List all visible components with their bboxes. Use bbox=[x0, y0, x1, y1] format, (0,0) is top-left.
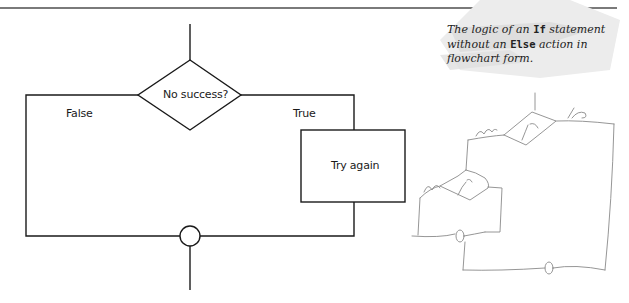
caption-code-else: Else bbox=[510, 38, 535, 50]
caption-code-if: If bbox=[533, 23, 546, 35]
process-label: Try again bbox=[331, 159, 379, 172]
false-path bbox=[26, 95, 180, 236]
true-path-bottom bbox=[200, 202, 354, 236]
true-branch-label: True bbox=[293, 107, 316, 120]
handwritten-sketch bbox=[412, 93, 614, 274]
decision-label: No success? bbox=[163, 88, 228, 101]
false-branch-label: False bbox=[66, 107, 93, 120]
figure-caption: The logic of an If statement without an … bbox=[447, 22, 627, 66]
caption-text: The logic of an bbox=[447, 23, 533, 36]
connector-circle bbox=[180, 226, 200, 246]
